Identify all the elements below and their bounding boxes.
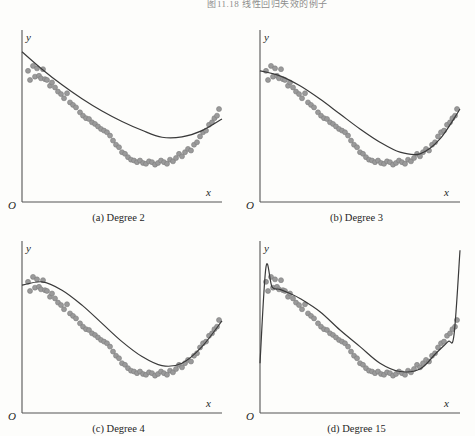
data-point xyxy=(189,148,194,153)
data-point xyxy=(28,77,33,82)
data-point xyxy=(355,356,360,361)
axes-degree-3 xyxy=(260,30,460,202)
x-axis-label: x xyxy=(205,397,211,409)
panel-caption-degree-2: (a) Degree 2 xyxy=(0,212,237,223)
data-point xyxy=(26,68,31,73)
scatter-points-degree-15 xyxy=(264,274,460,378)
y-axis-label: y xyxy=(263,242,269,254)
panel-caption-degree-4: (c) Degree 4 xyxy=(0,423,237,434)
figure-panel-grid: y x O (a) Degree 2 y x O (b) Degree 3 xyxy=(0,14,475,436)
origin-label: O xyxy=(246,410,254,422)
panel-caption-degree-15: (d) Degree 15 xyxy=(238,423,475,434)
data-point xyxy=(117,145,122,150)
data-point xyxy=(273,66,278,71)
data-point xyxy=(346,133,351,138)
plot-svg-degree-2: y x O xyxy=(0,14,237,225)
data-point xyxy=(189,359,194,364)
figure-header-caption: 图11.18 线性回归失效的例子 xyxy=(0,0,475,9)
data-point xyxy=(300,307,305,312)
data-point xyxy=(312,105,317,110)
axes-degree-2 xyxy=(22,30,222,202)
x-axis-label: x xyxy=(443,186,449,198)
plot-svg-degree-15: y x O xyxy=(238,225,475,436)
y-axis-label: y xyxy=(25,242,31,254)
y-axis-label: y xyxy=(25,31,31,43)
data-point xyxy=(312,316,317,321)
data-point xyxy=(65,91,70,96)
origin-label: O xyxy=(8,199,16,211)
data-point xyxy=(273,277,278,282)
data-point xyxy=(355,145,360,150)
data-point xyxy=(74,105,79,110)
scatter-points-degree-3 xyxy=(264,63,460,167)
data-point xyxy=(279,278,284,283)
data-point xyxy=(215,113,220,118)
data-point xyxy=(300,96,305,101)
data-point xyxy=(108,133,113,138)
chart-panel-degree-15: y x O (d) Degree 15 xyxy=(238,225,475,436)
data-point xyxy=(266,288,271,293)
panel-caption-degree-3: (b) Degree 3 xyxy=(238,212,475,223)
y-axis-label: y xyxy=(263,31,269,43)
x-axis-label: x xyxy=(205,186,211,198)
data-point xyxy=(62,96,67,101)
fit-curve-degree-2 xyxy=(22,52,222,138)
x-axis-label: x xyxy=(443,397,449,409)
axes-degree-15 xyxy=(260,241,460,413)
chart-panel-degree-2: y x O (a) Degree 2 xyxy=(0,14,237,225)
data-point xyxy=(45,288,50,293)
data-point xyxy=(35,277,40,282)
data-point xyxy=(62,307,67,312)
data-point xyxy=(217,107,222,112)
origin-label: O xyxy=(8,410,16,422)
data-point xyxy=(195,140,200,145)
data-point xyxy=(65,302,70,307)
plot-svg-degree-3: y x O xyxy=(238,14,475,225)
scatter-points-degree-4 xyxy=(26,274,222,378)
data-point xyxy=(45,77,50,82)
data-point xyxy=(50,80,55,85)
origin-label: O xyxy=(246,199,254,211)
data-point xyxy=(74,316,79,321)
axes-degree-4 xyxy=(22,241,222,413)
data-point xyxy=(279,67,284,72)
chart-panel-degree-3: y x O (b) Degree 3 xyxy=(238,14,475,225)
data-point xyxy=(28,288,33,293)
data-point xyxy=(303,91,308,96)
data-point xyxy=(266,77,271,82)
chart-panel-degree-4: y x O (c) Degree 4 xyxy=(0,225,237,436)
fit-curve-degree-15 xyxy=(260,250,460,372)
data-point xyxy=(346,344,351,349)
plot-svg-degree-4: y x O xyxy=(0,225,237,436)
data-point xyxy=(50,291,55,296)
data-point xyxy=(117,356,122,361)
data-point xyxy=(108,344,113,349)
